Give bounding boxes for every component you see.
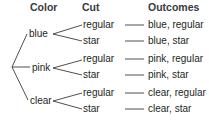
node-color-blue: blue [29, 28, 48, 40]
branch-clear-star [53, 101, 82, 109]
outcome-clear-star: clear, star [148, 103, 191, 115]
branch-blue-regular [53, 25, 82, 34]
branch-root-blue [12, 34, 27, 67]
outcome-pink-star: pink, star [148, 69, 189, 81]
node-cut-clear-regular: regular [83, 87, 114, 99]
node-color-clear: clear [30, 95, 52, 107]
header-color: Color [30, 1, 57, 13]
node-cut-pink-regular: regular [83, 53, 114, 65]
outcome-blue-star: blue, star [148, 35, 189, 47]
outcome-pink-regular: pink, regular [148, 53, 203, 65]
node-cut-blue-star: star [83, 35, 100, 47]
branch-pink-regular [53, 60, 82, 68]
branch-pink-star [53, 68, 82, 75]
outcome-blue-regular: blue, regular [148, 19, 204, 31]
header-outcomes: Outcomes [148, 1, 199, 13]
header-cut: Cut [82, 1, 100, 13]
branch-blue-star [53, 34, 82, 41]
node-color-pink: pink [32, 62, 50, 74]
node-cut-blue-regular: regular [83, 19, 114, 31]
node-cut-pink-star: star [83, 69, 100, 81]
outcome-clear-regular: clear, regular [148, 87, 206, 99]
node-cut-clear-star: star [83, 103, 100, 115]
branch-root-clear [12, 67, 28, 100]
branch-clear-regular [53, 93, 82, 101]
